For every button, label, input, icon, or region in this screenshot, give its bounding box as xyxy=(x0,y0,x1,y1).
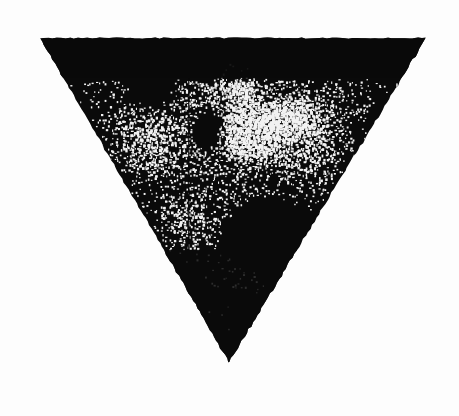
halftone-triangle-artwork xyxy=(0,0,459,416)
artwork-stage: Inverted Halftone Triangle Downward-poin… xyxy=(0,0,459,416)
